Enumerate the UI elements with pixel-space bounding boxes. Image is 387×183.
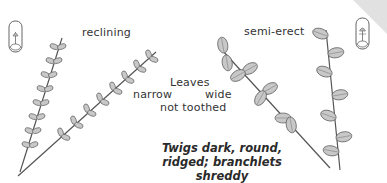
label-wide: wide <box>205 88 232 101</box>
semi-erect-twig-2 <box>311 26 352 170</box>
label-reclining: reclining <box>82 26 131 39</box>
label-not-toothed: not toothed <box>160 101 227 114</box>
caption-line-2: ridged; branchlets shreddy <box>142 155 302 183</box>
label-semi-erect: semi-erect <box>244 25 304 38</box>
reclining-twig-1 <box>20 38 67 172</box>
caption: Twigs dark, round, ridged; branchlets sh… <box>142 141 302 183</box>
label-leaves: Leaves <box>170 76 210 89</box>
caption-line-1: Twigs dark, round, <box>142 141 302 155</box>
botanical-illustration: reclining semi-erect Leaves narrow wide … <box>0 0 387 183</box>
label-narrow: narrow <box>133 88 172 101</box>
